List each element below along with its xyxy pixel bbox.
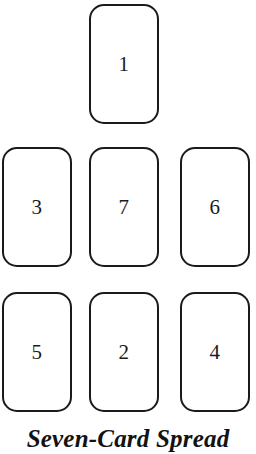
card-6[interactable]: 6 (180, 147, 250, 267)
card-number-label: 1 (119, 54, 130, 75)
card-number-label: 6 (210, 197, 221, 218)
seven-card-spread-figure: 1376524 Seven-Card Spread (0, 0, 256, 454)
card-number-label: 3 (32, 197, 43, 218)
card-1[interactable]: 1 (89, 4, 159, 124)
figure-caption: Seven-Card Spread (0, 424, 256, 454)
card-2[interactable]: 2 (89, 292, 159, 412)
card-7[interactable]: 7 (89, 147, 159, 267)
card-5[interactable]: 5 (2, 292, 72, 412)
card-3[interactable]: 3 (2, 147, 72, 267)
card-number-label: 2 (119, 342, 130, 363)
card-layout-grid: 1376524 (0, 0, 256, 454)
card-number-label: 7 (119, 197, 130, 218)
card-number-label: 5 (32, 342, 43, 363)
card-4[interactable]: 4 (180, 292, 250, 412)
card-number-label: 4 (210, 342, 221, 363)
